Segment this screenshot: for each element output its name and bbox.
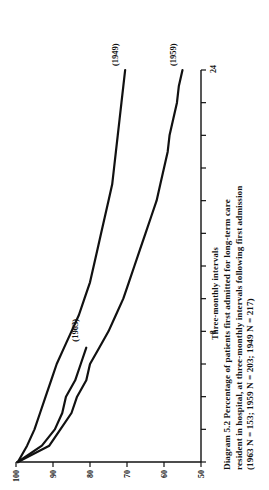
y-tick-label: 90 xyxy=(49,470,58,478)
x-tick-label: 24 xyxy=(209,65,218,73)
caption-line-1: Diagram 5.2 Percentage of patients first… xyxy=(222,18,234,470)
caption-line-3: (1963 N = 153; 1959 N = 203; 1949 N = 21… xyxy=(245,18,257,470)
series-label-1949: (1949) xyxy=(110,43,120,66)
chart-plot-area xyxy=(16,70,201,462)
figure-page: Three-monthly intervals % of cohort 1009… xyxy=(0,0,269,490)
series-label-1959: (1959) xyxy=(168,43,178,66)
y-tick-label: 60 xyxy=(160,470,169,478)
caption-line-2: resident in hospital, at three-monthly i… xyxy=(234,18,246,470)
y-tick-label: 100 xyxy=(12,470,21,482)
y-tick-label: 80 xyxy=(86,470,95,478)
line-chart xyxy=(16,70,201,462)
rotated-figure-stage: Three-monthly intervals % of cohort 1009… xyxy=(0,0,269,490)
y-tick-label: 50 xyxy=(197,470,206,478)
x-tick-label: 8 xyxy=(209,330,218,334)
series-label-1963: (1963) xyxy=(70,319,80,342)
x-axis-label: Three-monthly intervals xyxy=(210,247,220,340)
y-tick-label: 70 xyxy=(123,470,132,478)
figure-caption: Diagram 5.2 Percentage of patients first… xyxy=(222,18,257,470)
diagram-figure: Three-monthly intervals % of cohort 1009… xyxy=(0,0,269,490)
